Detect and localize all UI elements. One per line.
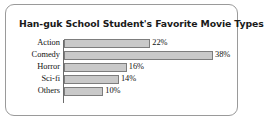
category-label-others: Others xyxy=(19,86,60,95)
category-label-horror: Horror xyxy=(19,62,60,71)
bar-others xyxy=(64,87,103,96)
bar-value-action: 22% xyxy=(152,38,167,47)
bar-track-others: 10% xyxy=(64,87,103,96)
category-label-action: Action xyxy=(19,38,60,47)
bar-scifi xyxy=(64,75,119,84)
bar-row: Horror 16% xyxy=(19,63,229,72)
bar-comedy xyxy=(64,51,213,60)
bar-horror xyxy=(64,63,127,72)
bar-track-comedy: 38% xyxy=(64,51,213,60)
bar-value-scifi: 14% xyxy=(121,74,136,83)
bar-track-horror: 16% xyxy=(64,63,127,72)
chart-card: Han-guk School Student's Favorite Movie … xyxy=(5,4,238,116)
plot-area: Action 22% Comedy 38% Horror 16% Sci-fi xyxy=(19,38,229,104)
category-label-scifi: Sci-fi xyxy=(19,74,60,83)
bar-action xyxy=(64,39,150,48)
bar-row: Action 22% xyxy=(19,39,229,48)
chart-title: Han-guk School Student's Favorite Movie … xyxy=(19,18,245,29)
bar-value-others: 10% xyxy=(105,86,120,95)
bar-row: Sci-fi 14% xyxy=(19,75,229,84)
category-label-comedy: Comedy xyxy=(19,50,60,59)
bar-track-scifi: 14% xyxy=(64,75,119,84)
bar-value-horror: 16% xyxy=(129,62,144,71)
bar-row: Others 10% xyxy=(19,87,229,96)
bar-track-action: 22% xyxy=(64,39,150,48)
bar-row: Comedy 38% xyxy=(19,51,229,60)
bar-value-comedy: 38% xyxy=(215,50,230,59)
